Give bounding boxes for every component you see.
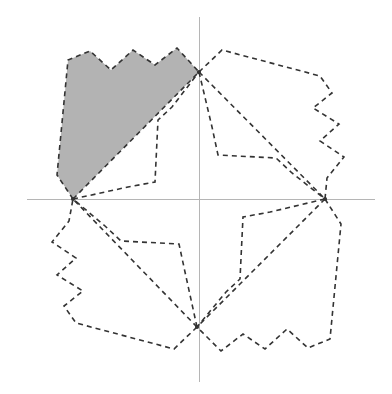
bottom-hub-marker — [195, 325, 199, 329]
pinwheel-dissection-figure — [0, 0, 392, 394]
figure-background — [0, 0, 392, 394]
top-hub-marker — [197, 70, 201, 74]
figure-root — [0, 0, 392, 394]
left-hub-marker — [71, 197, 75, 201]
right-hub-marker — [323, 197, 327, 201]
